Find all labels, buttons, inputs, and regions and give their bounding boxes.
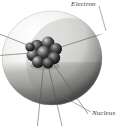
label-electron: Electron — [71, 0, 96, 8]
atom-illustration-svg — [0, 0, 120, 126]
label-nucleus: Nucleus — [92, 109, 115, 117]
atom-diagram-figure: Electron Nucleus — [0, 0, 120, 126]
